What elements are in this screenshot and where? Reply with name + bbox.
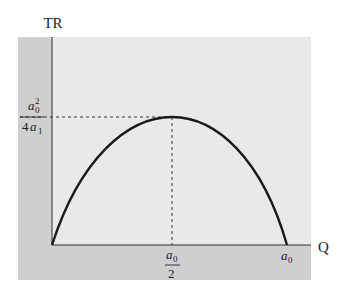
y-axis-label: TR	[43, 15, 62, 31]
y-tick-den-coef: 4	[22, 119, 29, 134]
tr-diagram: TR Q a 0 2 4 a 1 a 0 2 a 0	[0, 0, 341, 293]
y-tick-num-a: a	[28, 98, 35, 113]
y-tick-num-sup: 2	[35, 96, 40, 106]
x-axis-label: Q	[318, 239, 329, 255]
x-tick1-den: 2	[168, 266, 175, 281]
y-tick-num-sub: 0	[35, 105, 40, 115]
x-tick2-a: a	[281, 248, 288, 263]
y-tick-den-a: a	[30, 119, 37, 134]
plot-area	[52, 37, 311, 245]
x-tick1-a: a	[166, 247, 173, 262]
x-tick2-sub: 0	[288, 255, 293, 265]
x-tick1-sub: 0	[173, 254, 178, 264]
y-tick-den-sub: 1	[38, 126, 43, 136]
